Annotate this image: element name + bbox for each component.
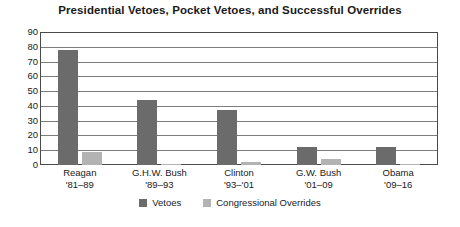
x-label-years: '81–89 bbox=[40, 179, 120, 191]
y-axis-tick-label: 30 bbox=[2, 116, 38, 126]
bar-overrides bbox=[321, 159, 341, 165]
x-axis: Reagan'81–89G.H.W. Bush'89–93Clinton'93–… bbox=[40, 167, 438, 195]
y-axis: 9080706050403020100 bbox=[0, 32, 38, 165]
x-label-name: Clinton bbox=[224, 167, 254, 178]
x-axis-tick-label: Clinton'93–'01 bbox=[199, 167, 279, 191]
y-axis-tick-label: 10 bbox=[2, 145, 38, 155]
x-label-years: '89–93 bbox=[120, 179, 200, 191]
y-axis-tick-label: 40 bbox=[2, 101, 38, 111]
x-axis-tick-label: Obama'09–16 bbox=[358, 167, 438, 191]
bar-overrides bbox=[161, 164, 181, 165]
chart-title: Presidential Vetoes, Pocket Vetoes, and … bbox=[0, 4, 460, 16]
bar-group bbox=[358, 32, 438, 165]
x-axis-tick-label: G.W. Bush'01–09 bbox=[279, 167, 359, 191]
y-axis-tick-label: 20 bbox=[2, 131, 38, 141]
bar-overrides bbox=[400, 164, 420, 165]
bar-vetoes bbox=[137, 100, 157, 165]
x-label-name: Obama bbox=[383, 167, 414, 178]
legend-swatch-icon bbox=[139, 199, 147, 207]
bar-overrides bbox=[82, 152, 102, 165]
bars-layer bbox=[40, 32, 438, 165]
legend-item[interactable]: Vetoes bbox=[139, 197, 181, 208]
bar-chart: Presidential Vetoes, Pocket Vetoes, and … bbox=[0, 0, 460, 227]
x-label-years: '09–16 bbox=[358, 179, 438, 191]
y-axis-tick-label: 90 bbox=[2, 27, 38, 37]
y-axis-tick-label: 50 bbox=[2, 86, 38, 96]
x-label-name: G.W. Bush bbox=[296, 167, 341, 178]
legend-item[interactable]: Congressional Overrides bbox=[203, 197, 321, 208]
x-axis-tick-label: Reagan'81–89 bbox=[40, 167, 120, 191]
x-label-name: Reagan bbox=[63, 167, 96, 178]
bar-vetoes bbox=[297, 147, 317, 165]
legend-swatch-icon bbox=[203, 199, 211, 207]
x-axis-tick-label: G.H.W. Bush'89–93 bbox=[120, 167, 200, 191]
bar-group bbox=[199, 32, 279, 165]
y-axis-tick-label: 60 bbox=[2, 72, 38, 82]
bar-vetoes bbox=[58, 50, 78, 165]
bar-group bbox=[40, 32, 120, 165]
bar-overrides bbox=[241, 162, 261, 165]
bar-vetoes bbox=[217, 110, 237, 165]
x-label-years: '01–09 bbox=[279, 179, 359, 191]
x-label-years: '93–'01 bbox=[199, 179, 279, 191]
y-axis-tick-label: 70 bbox=[2, 57, 38, 67]
legend-label: Congressional Overrides bbox=[216, 197, 321, 208]
y-axis-tick-label: 0 bbox=[2, 160, 38, 170]
x-label-name: G.H.W. Bush bbox=[132, 167, 187, 178]
bar-group bbox=[120, 32, 200, 165]
y-axis-tick-label: 80 bbox=[2, 42, 38, 52]
bar-group bbox=[279, 32, 359, 165]
chart-legend: VetoesCongressional Overrides bbox=[0, 197, 460, 208]
bar-vetoes bbox=[376, 147, 396, 165]
legend-label: Vetoes bbox=[152, 197, 181, 208]
